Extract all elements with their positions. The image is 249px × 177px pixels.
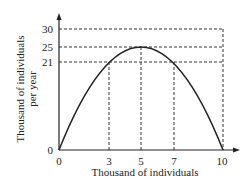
x-axis-arrow-icon [233,148,240,153]
x-tick-0: 0 [56,155,62,167]
chart: 30 25 21 0 0 3 5 7 10 Thousand of indivi… [0,0,249,177]
y-axis-title-line2: per year [26,71,38,107]
y-tick-0: 0 [48,144,54,156]
y-tick-25: 25 [42,41,54,53]
x-axis-title: Thousand of individuals [92,166,199,177]
x-tick-10: 10 [217,155,229,167]
y-axis-arrow-icon [57,13,62,20]
y-tick-30: 30 [42,23,54,35]
y-tick-21: 21 [42,56,53,68]
y-axis-title-line1: Thousand of individuals [14,36,26,143]
